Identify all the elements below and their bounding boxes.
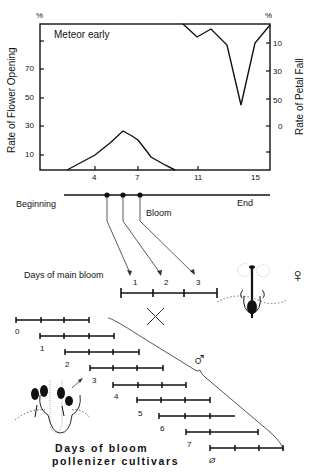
main-day-1: 1	[133, 279, 137, 287]
bar-5	[137, 397, 210, 403]
main-bloom-scale	[121, 288, 217, 298]
arrowheads	[127, 269, 195, 276]
female-symbol: ♀	[290, 265, 305, 285]
left-tick-30: 30	[25, 122, 34, 130]
x-tick-15: 15	[251, 174, 260, 182]
right-axis-label: Rate of Petal Fall	[294, 58, 305, 135]
pollenizer-label-6: 6	[160, 425, 164, 433]
pollenizer-label-0: 0	[15, 328, 19, 336]
petal-fall-curve	[183, 24, 270, 105]
pollenizer-label-7: 7	[187, 441, 191, 449]
pollenizer-label-5: 5	[138, 410, 142, 418]
bloom-beginning-label: Beginning	[16, 200, 56, 209]
right-percent-label: %	[265, 12, 272, 20]
pollenizer-label-8: Ø	[209, 457, 215, 465]
bar-3	[90, 365, 163, 371]
flower-opening-curve	[67, 131, 175, 170]
bar-2	[65, 349, 139, 355]
male-flower-illustration	[15, 378, 90, 433]
cross-symbol	[147, 308, 164, 325]
chart-title: Meteor early	[54, 30, 110, 40]
right-tick-50: 50	[273, 97, 282, 105]
male-symbol: ♂	[192, 349, 207, 369]
pollenizer-bars	[16, 317, 283, 451]
left-axis-label: Rate of Flower Opening	[6, 47, 17, 153]
bar-1	[40, 333, 114, 339]
main-day-3: 3	[196, 279, 200, 287]
right-tick-30: 30	[273, 68, 282, 76]
pollenizer-label-4: 4	[114, 393, 118, 401]
x-tick-7: 7	[135, 174, 139, 182]
bloom-end-label: End	[237, 199, 253, 208]
bar-4	[113, 382, 186, 388]
left-tick-10: 10	[25, 151, 34, 159]
x-tick-11: 11	[194, 174, 202, 182]
bar-6	[159, 413, 235, 419]
female-flower-illustration	[217, 263, 287, 318]
left-tick-50: 50	[25, 94, 34, 102]
right-tick-10: 10	[273, 40, 282, 48]
main-day-2: 2	[164, 279, 168, 287]
bar-8	[210, 445, 283, 451]
caption-line-2: pollenizer cultivars	[52, 456, 179, 467]
x-tick-4: 4	[92, 174, 96, 182]
bloom-label: Bloom	[146, 209, 172, 218]
left-tick-70: 70	[25, 65, 34, 73]
pollenizer-label-3: 3	[92, 377, 96, 385]
main-bloom-label: Days of main bloom	[24, 271, 104, 280]
left-percent-label: %	[36, 12, 43, 20]
right-tick-0: 0	[278, 123, 282, 131]
chart-frame	[40, 24, 270, 170]
bar-0	[16, 317, 89, 323]
bar-7	[186, 429, 258, 435]
pollenizer-label-2: 2	[65, 361, 69, 369]
diagram-graphics	[0, 0, 311, 472]
pollenizer-label-1: 1	[40, 345, 44, 353]
caption-line-1: Days of bloom	[55, 443, 148, 454]
